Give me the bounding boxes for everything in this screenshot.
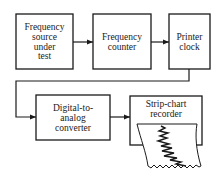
block-printer-clock-line-2: clock bbox=[179, 42, 200, 52]
block-recorder-line-1: Strip-chart bbox=[146, 99, 187, 109]
block-printer-clock-line-1: Printer bbox=[177, 32, 204, 42]
block-frequency-source-line-2: source bbox=[32, 32, 57, 42]
block-frequency-counter: Frequency counter bbox=[93, 14, 151, 69]
block-frequency-source-line-4: test bbox=[38, 51, 52, 61]
strip-chart-paper-icon bbox=[137, 124, 201, 168]
block-frequency-counter-line-1: Frequency bbox=[102, 32, 142, 42]
block-dac-line-1: Digital-to- bbox=[53, 103, 93, 113]
block-recorder-line-2: recorder bbox=[150, 109, 182, 119]
block-printer-clock: Printer clock bbox=[169, 14, 210, 69]
block-dac: Digital-to- analog converter bbox=[36, 95, 110, 140]
block-diagram: Frequency source under test Frequency co… bbox=[0, 0, 217, 177]
block-frequency-counter-line-2: counter bbox=[108, 42, 137, 52]
block-dac-line-3: converter bbox=[55, 123, 92, 133]
block-dac-line-2: analog bbox=[60, 113, 86, 123]
block-frequency-source-line-1: Frequency bbox=[24, 22, 64, 32]
block-frequency-source: Frequency source under test bbox=[16, 14, 73, 69]
